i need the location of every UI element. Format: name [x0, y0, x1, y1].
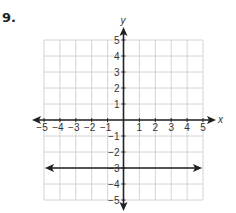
y-tick-label: 1: [114, 99, 120, 110]
coordinate-plane: −5−4−3−2−11234554321−1−2−3−4−5xy: [0, 0, 236, 213]
x-tick-label: 1: [137, 122, 143, 133]
y-tick-label: −2: [108, 147, 120, 158]
x-tick-label: 3: [168, 122, 174, 133]
tick-labels: −5−4−3−2−11234554321−1−2−3−4−5xy: [36, 15, 224, 206]
x-tick-label: 5: [200, 122, 206, 133]
y-tick-label: 5: [114, 35, 120, 46]
y-axis-label: y: [120, 15, 127, 26]
y-tick-label: −1: [108, 131, 120, 142]
x-axis-label: x: [217, 114, 224, 125]
x-tick-label: −5: [36, 122, 48, 133]
y-tick-label: 3: [114, 67, 120, 78]
x-tick-label: 4: [184, 122, 190, 133]
y-tick-label: −5: [108, 195, 120, 206]
x-tick-label: −3: [68, 122, 80, 133]
y-tick-label: 2: [114, 83, 120, 94]
x-tick-label: −2: [84, 122, 96, 133]
y-tick-label: 4: [114, 51, 120, 62]
x-tick-label: 2: [153, 122, 159, 133]
x-tick-label: −4: [52, 122, 64, 133]
y-tick-label: −4: [108, 179, 120, 190]
